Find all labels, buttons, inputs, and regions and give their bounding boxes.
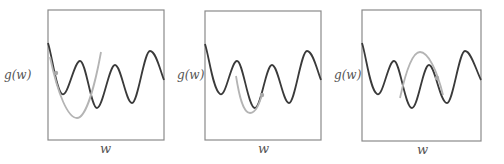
plot-frame <box>205 11 321 140</box>
approximation-curve <box>50 52 101 118</box>
x-axis-label: w <box>258 141 269 156</box>
x-axis-label: w <box>417 142 428 157</box>
y-axis-label: g(w) <box>4 68 31 82</box>
y-axis-label: g(w) <box>334 68 361 82</box>
evaluation-point <box>260 93 264 97</box>
panel-2 <box>205 11 321 140</box>
approximation-curve <box>400 52 443 98</box>
plot-frame <box>362 10 481 141</box>
figure: g(w) w g(w) w g(w) w <box>0 0 504 164</box>
figure-canvas <box>0 0 504 164</box>
cost-function-curve <box>205 44 321 108</box>
panel-1 <box>48 10 164 140</box>
plot-frame <box>48 10 164 140</box>
x-axis-label: w <box>100 141 111 156</box>
panel-3 <box>362 10 481 141</box>
cost-function-curve <box>48 43 164 108</box>
evaluation-point <box>54 71 58 75</box>
evaluation-point <box>435 76 439 80</box>
y-axis-label: g(w) <box>177 68 204 82</box>
